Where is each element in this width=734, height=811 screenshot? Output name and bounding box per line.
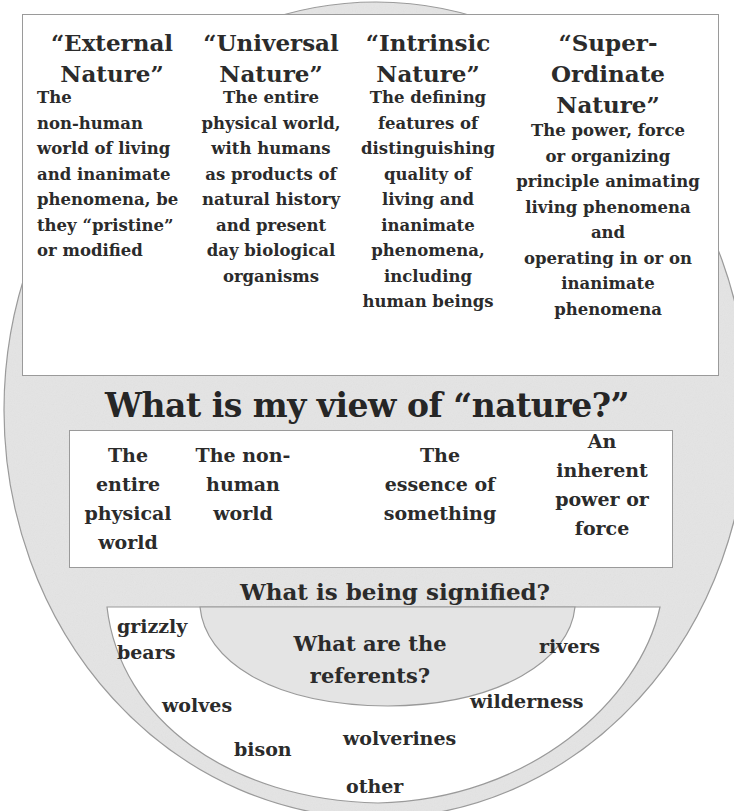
conception-external: “External Nature” The non-human world of… [37,27,187,264]
referents-question: What are the referents? [270,628,470,692]
conception-description: The non-human world of living and inanim… [37,85,187,264]
view-non-human-world: The non- human world [188,441,298,528]
main-question: What is my view of “nature?” [0,386,734,425]
signified-question: What is being signified? [0,578,734,605]
view-inherent-power: An inherent power or force [532,427,672,543]
view-entire-physical-world: The entire physical world [78,441,178,557]
referent-wolverines: wolverines [343,725,456,752]
conception-intrinsic: “Intrinsic Nature” The defining features… [353,27,503,315]
referent-other: other [346,773,403,800]
conception-universal: “Universal Nature” The entire physical w… [191,27,351,289]
conception-description: The entire physical world, with humans a… [191,85,351,289]
conception-title: “Universal Nature” [191,27,351,89]
view-essence-of-something: The essence of something [355,441,525,528]
conception-title: “Intrinsic Nature” [353,27,503,89]
conception-title: “Super-Ordinate Nature” [503,27,713,120]
referent-wolves: wolves [162,692,232,719]
referent-bison: bison [234,736,292,763]
conception-title: “External Nature” [37,27,187,89]
conception-description: The defining features of distinguishing … [353,85,503,315]
referent-wilderness: wilderness [470,688,583,715]
conceptions-box: “External Nature” The non-human world of… [22,14,719,376]
views-box: The entire physical world The non- human… [69,430,673,568]
conception-super-ordinate: “Super-Ordinate Nature” The power, force… [503,27,713,322]
referent-rivers: rivers [539,633,600,660]
conception-description: The power, force or organizing principle… [503,118,713,322]
referent-grizzly-bears: grizzly bears [117,613,187,665]
